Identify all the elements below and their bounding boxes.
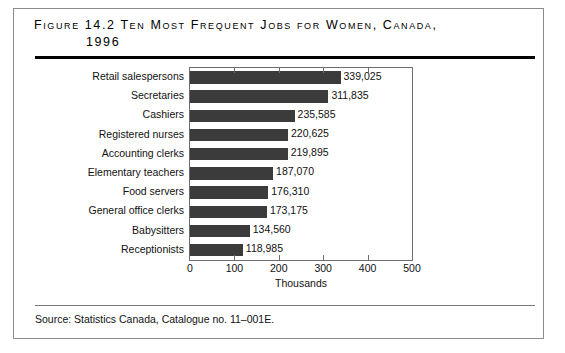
x-axis-tick-label: 300 [314,262,332,274]
x-axis-tick-label: 200 [270,262,288,274]
bar-row: 219,895 [190,145,412,164]
category-label: Cashiers [24,105,184,124]
x-axis-tick-labels: 0100200300400500 [189,262,413,276]
x-axis-tick-label: 400 [359,262,377,274]
bar-row: 176,310 [190,183,412,202]
category-axis-labels: Retail salespersonsSecretariesCashiersRe… [24,67,184,259]
bar [190,186,268,198]
figure-title: Figure 14.2 Ten Most Frequent Jobs for W… [34,17,514,51]
bar-value-label: 176,310 [268,185,309,197]
category-label: Registered nurses [24,125,184,144]
category-label: Receptionists [24,240,184,259]
category-label: Elementary teachers [24,163,184,182]
bar-value-label: 219,895 [288,146,329,158]
x-axis-tick [323,68,324,73]
bar-value-label: 134,560 [250,223,291,235]
category-label: Secretaries [24,86,184,105]
bar [190,71,341,83]
x-axis-tick [279,255,280,260]
bar-row: 173,175 [190,202,412,221]
bar [190,225,250,237]
bar-value-label: 311,835 [328,89,368,101]
source-note: Source: Statistics Canada, Catalogue no.… [35,313,274,325]
x-axis-tick-label: 100 [226,262,244,274]
bar [190,148,288,160]
category-label: Accounting clerks [24,144,184,163]
bar-row: 311,835 [190,87,412,106]
plot-area: 339,025311,835235,585220,625219,895187,0… [189,67,413,261]
category-label: Food servers [24,182,184,201]
title-divider [35,56,535,59]
bar-value-label: 220,625 [288,127,329,139]
bar [190,167,273,179]
bar-value-label: 173,175 [267,204,308,216]
bar-row: 118,985 [190,241,412,260]
bar-row: 339,025 [190,68,412,87]
category-label: Retail salespersons [24,67,184,86]
bar-row: 187,070 [190,164,412,183]
x-axis-tick [323,255,324,260]
bar-value-label: 118,985 [243,242,283,254]
bar-row: 134,560 [190,222,412,241]
x-axis-tick [368,68,369,73]
figure-frame: Figure 14.2 Ten Most Frequent Jobs for W… [13,8,544,339]
bar-value-label: 235,585 [295,108,336,120]
x-axis-tick [234,68,235,73]
x-axis-tick [368,255,369,260]
x-axis-title: Thousands [189,277,413,289]
bar [190,90,328,102]
figure-title-line-1: Figure 14.2 Ten Most Frequent Jobs for W… [34,18,438,32]
figure-title-line-2: 1996 [34,34,514,51]
bar-chart: Retail salespersonsSecretariesCashiersRe… [14,61,545,296]
x-axis-tick [234,255,235,260]
bar [190,129,288,141]
bar-value-label: 339,025 [341,70,382,82]
bar-row: 235,585 [190,106,412,125]
bar-row: 220,625 [190,126,412,145]
x-axis-tick [279,68,280,73]
bar-series: 339,025311,835235,585220,625219,895187,0… [190,68,412,260]
category-label: General office clerks [24,201,184,220]
bar-value-label: 187,070 [273,165,314,177]
category-label: Babysitters [24,221,184,240]
bar [190,206,267,218]
source-divider [35,305,535,306]
x-axis-tick-label: 0 [187,262,193,274]
x-axis-tick-label: 500 [403,262,421,274]
bar [190,110,295,122]
